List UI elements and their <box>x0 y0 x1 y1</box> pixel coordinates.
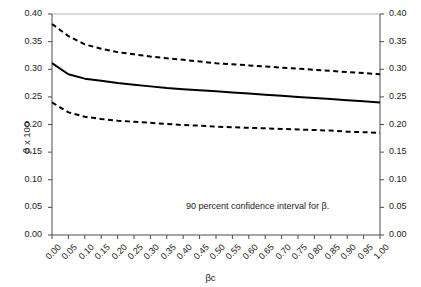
x-axis-label: βc <box>0 272 421 283</box>
y-tick-label-right: 0.00 <box>389 229 419 239</box>
y-tick-label-left: 0.20 <box>12 119 42 129</box>
y-tick-label-left: 0.25 <box>12 91 42 101</box>
y-tick-label-right: 0.15 <box>389 146 419 156</box>
chart-figure: β x 100 βc 90 percent confidence interva… <box>0 0 421 287</box>
y-tick-label-left: 0.35 <box>12 36 42 46</box>
series-line-1 <box>52 63 380 102</box>
series-line-0 <box>52 24 380 74</box>
y-axis-label: β x 100 <box>21 108 32 168</box>
y-tick-label-left: 0.40 <box>12 8 42 18</box>
y-tick-label-left: 0.00 <box>12 229 42 239</box>
chart-canvas <box>0 0 421 287</box>
y-tick-label-right: 0.35 <box>389 36 419 46</box>
y-tick-label-left: 0.10 <box>12 174 42 184</box>
y-tick-label-right: 0.10 <box>389 174 419 184</box>
y-tick-label-right: 0.05 <box>389 201 419 211</box>
y-tick-label-right: 0.30 <box>389 63 419 73</box>
chart-annotation: 90 percent confidence interval for β. <box>186 201 329 211</box>
y-tick-label-left: 0.15 <box>12 146 42 156</box>
y-tick-label-left: 0.30 <box>12 63 42 73</box>
series-line-2 <box>52 102 380 132</box>
y-tick-label-right: 0.40 <box>389 8 419 18</box>
y-tick-label-right: 0.25 <box>389 91 419 101</box>
y-tick-label-left: 0.05 <box>12 201 42 211</box>
y-tick-label-right: 0.20 <box>389 119 419 129</box>
